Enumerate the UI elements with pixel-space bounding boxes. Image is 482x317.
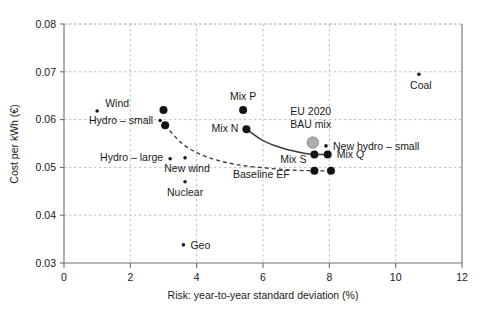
- point-labels: WindHydro – smallHydro – largeNew windNu…: [89, 79, 432, 251]
- y-tick-label-1: 0.04: [36, 209, 57, 221]
- point-label-mix-q: Mix Q: [337, 148, 364, 160]
- data-point-unlabeled-15: [327, 167, 335, 175]
- y-tick-label-2: 0.05: [36, 161, 57, 173]
- data-point-nuclear: [183, 180, 187, 184]
- x-axis-title: Risk: year-to-year standard deviation (%…: [168, 289, 359, 301]
- x-tick-label-4: 8: [326, 271, 332, 283]
- annotation-baseline-ef: Baseline EF: [233, 168, 290, 180]
- data-point-coal: [417, 72, 421, 76]
- y-tick-label-5: 0.08: [36, 18, 57, 30]
- x-tick-label-3: 6: [260, 271, 266, 283]
- data-point-new-hydro-small: [324, 144, 328, 148]
- data-point-hydro-small: [158, 119, 162, 123]
- data-point-mix-q: [324, 150, 332, 158]
- data-point-mix-s: [310, 150, 318, 158]
- x-tick-label-6: 12: [456, 271, 468, 283]
- point-label-nuclear: Nuclear: [167, 186, 204, 198]
- point-label-hydro-small: Hydro – small: [89, 114, 153, 126]
- y-tick-label-0: 0.03: [36, 257, 57, 269]
- point-label-mix-p: Mix P: [230, 90, 256, 102]
- data-point-unlabeled-12: [160, 106, 168, 114]
- point-label-mix-s: Mix S: [280, 153, 306, 165]
- point-label-wind: Wind: [105, 97, 129, 109]
- data-point-unlabeled-14: [310, 167, 318, 175]
- data-point-mix-n: [242, 125, 250, 133]
- y-axis-title: Cost per kWh (€): [8, 104, 20, 183]
- data-point-wind: [95, 109, 99, 113]
- point-label-hydro-large: Hydro – large: [100, 151, 163, 163]
- x-tick-label-0: 0: [61, 271, 67, 283]
- x-tick-label-2: 4: [194, 271, 200, 283]
- annotations: Baseline EF: [233, 168, 290, 180]
- scatter-plot: 0.030.040.050.060.070.08024681012 WindHy…: [0, 0, 482, 317]
- point-label-coal: Coal: [410, 79, 432, 91]
- point-label-eu-2020: EU 2020: [290, 105, 331, 117]
- point-label-mix-n: Mix N: [212, 122, 239, 134]
- x-tick-label-1: 2: [127, 271, 133, 283]
- data-point-geo: [182, 243, 186, 247]
- data-point-unlabeled-13: [161, 121, 169, 129]
- point-label-new-wind: New wind: [164, 162, 210, 174]
- y-tick-label-4: 0.07: [36, 66, 57, 78]
- point-label-geo: Geo: [190, 239, 210, 251]
- x-tick-label-5: 10: [390, 271, 402, 283]
- data-point-eu-2020-bau-mix: [307, 137, 318, 148]
- point-label-bau-mix: BAU mix: [290, 118, 332, 130]
- chart-figure: 0.030.040.050.060.070.08024681012 WindHy…: [0, 0, 482, 317]
- data-point-mix-p: [239, 106, 247, 114]
- data-point-hydro-large: [168, 157, 172, 161]
- data-point-new-wind: [183, 156, 187, 160]
- y-tick-label-3: 0.06: [36, 113, 57, 125]
